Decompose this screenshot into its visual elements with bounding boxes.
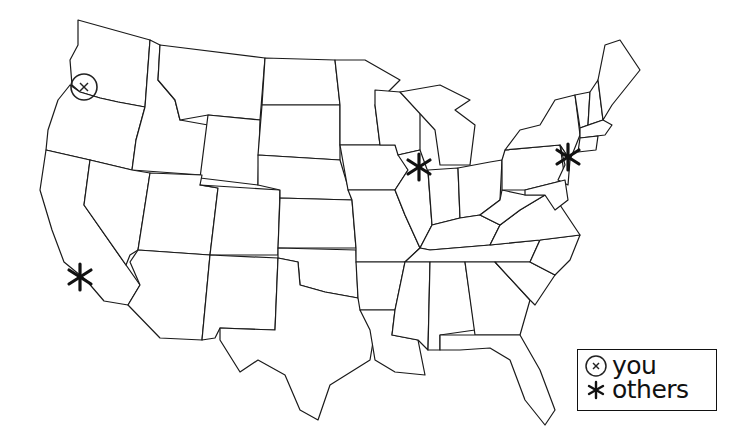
legend-label: others <box>612 378 689 402</box>
legend: you others <box>577 349 717 411</box>
asterisk-icon <box>584 378 608 402</box>
state-kansas <box>278 198 356 248</box>
state-florida <box>440 335 555 425</box>
state-outlines <box>40 20 640 425</box>
circled-x-icon <box>584 354 608 378</box>
state-indiana <box>428 168 460 225</box>
state-new-mexico <box>202 255 278 340</box>
state-wyoming <box>200 115 260 185</box>
legend-item-others: others <box>584 378 689 402</box>
state-north-dakota <box>262 58 340 105</box>
state-connecticut <box>578 136 598 152</box>
state-south-dakota <box>258 105 340 160</box>
state-arizona <box>128 250 210 340</box>
state-maine <box>598 40 640 120</box>
